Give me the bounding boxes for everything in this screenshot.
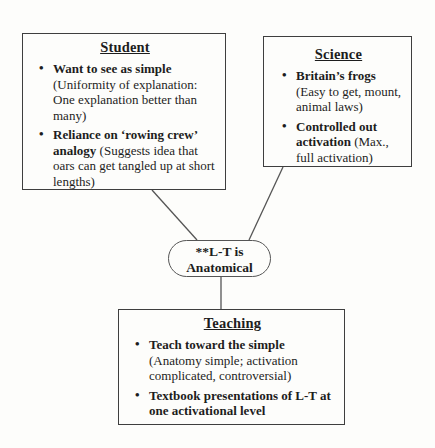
diagram-canvas: Student •Want to see as simple (Uniformi…	[0, 0, 435, 448]
connector-science-center	[249, 167, 283, 240]
bullet-lead: Want to see as simple	[53, 61, 171, 76]
list-item: •Textbook presentations of L-T at one ac…	[125, 388, 340, 419]
student-title: Student	[29, 39, 221, 56]
bullet-detail: (Uniformity of explanation: One explanat…	[53, 77, 197, 123]
bullet-icon: •	[39, 126, 44, 142]
science-bullet-list: •Britain’s frogs (Easy to get, mount, an…	[270, 68, 407, 165]
node-science: Science •Britain’s frogs (Easy to get, m…	[263, 36, 412, 167]
bullet-icon: •	[282, 118, 287, 134]
center-node-line1: **L-T is	[169, 244, 270, 260]
teaching-title: Teaching	[125, 315, 340, 332]
bullet-icon: •	[135, 387, 140, 403]
node-center: **L-T is Anatomical	[168, 240, 271, 277]
node-teaching: Teaching •Teach toward the simple (Anato…	[118, 309, 345, 425]
bullet-lead: Britain’s frogs	[296, 68, 376, 83]
bullet-lead: Teach toward the simple	[149, 337, 285, 352]
bullet-detail: (Anatomy simple; activation complicated,…	[149, 353, 298, 384]
center-node-line2: Anatomical	[169, 260, 270, 276]
list-item: •Want to see as simple (Uniformity of ex…	[29, 61, 221, 123]
list-item: •Britain’s frogs (Easy to get, mount, an…	[270, 68, 407, 115]
teaching-bullet-list: •Teach toward the simple (Anatomy simple…	[125, 337, 340, 419]
list-item: •Reliance on ‘rowing crew’ analogy (Sugg…	[29, 127, 221, 189]
connector-student-center	[152, 190, 197, 240]
list-item: •Controlled out activation (Max., full a…	[270, 119, 407, 166]
science-title: Science	[270, 46, 407, 63]
bullet-lead: Textbook presentations of L-T at one act…	[149, 388, 331, 419]
node-student: Student •Want to see as simple (Uniformi…	[22, 33, 226, 190]
bullet-icon: •	[282, 67, 287, 83]
list-item: •Teach toward the simple (Anatomy simple…	[125, 337, 340, 384]
bullet-detail: (Easy to get, mount, animal laws)	[296, 84, 401, 115]
bullet-icon: •	[39, 60, 44, 76]
student-bullet-list: •Want to see as simple (Uniformity of ex…	[29, 61, 221, 189]
bullet-icon: •	[135, 336, 140, 352]
